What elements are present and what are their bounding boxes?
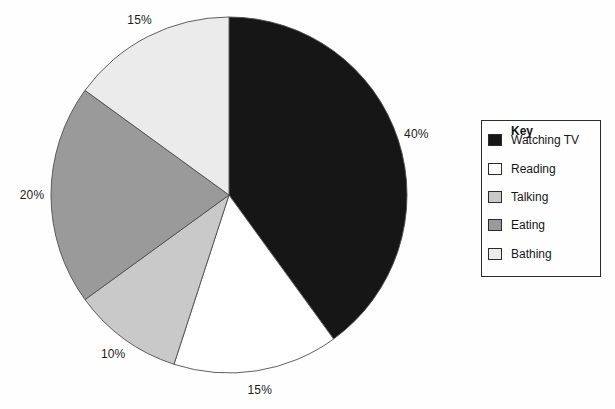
legend-item-bathing: Bathing bbox=[482, 240, 600, 268]
slice-pct-label-reading: 15% bbox=[247, 383, 272, 397]
legend-swatch-icon bbox=[488, 248, 502, 260]
legend-item-eating: Eating bbox=[482, 211, 600, 239]
legend-swatch-icon bbox=[488, 191, 502, 203]
legend-swatch-icon bbox=[488, 219, 502, 231]
legend-item-label: Bathing bbox=[511, 247, 552, 261]
pie-chart-figure: 40%15%10%20%15% Key Watching TVReadingTa… bbox=[0, 0, 615, 409]
legend-item-label: Eating bbox=[511, 218, 545, 232]
slice-pct-label-watching-tv: 40% bbox=[404, 127, 429, 141]
legend-title: Key bbox=[511, 124, 533, 138]
slice-pct-label-eating: 20% bbox=[20, 188, 45, 202]
pie-chart: 40%15%10%20%15% bbox=[0, 0, 470, 409]
legend-item-reading: Reading bbox=[482, 154, 600, 182]
legend-swatch-icon bbox=[488, 134, 502, 146]
legend-item-talking: Talking bbox=[482, 183, 600, 211]
slice-pct-label-talking: 10% bbox=[101, 347, 126, 361]
legend-item-label: Talking bbox=[511, 190, 548, 204]
legend-items: Watching TVReadingTalkingEatingBathing bbox=[482, 121, 600, 268]
slice-pct-label-bathing: 15% bbox=[127, 13, 152, 27]
legend-swatch-icon bbox=[488, 163, 502, 175]
legend-item-watching-tv: Watching TV bbox=[482, 126, 600, 154]
legend-item-label: Reading bbox=[511, 162, 556, 176]
legend-box: Key Watching TVReadingTalkingEatingBathi… bbox=[481, 120, 601, 277]
